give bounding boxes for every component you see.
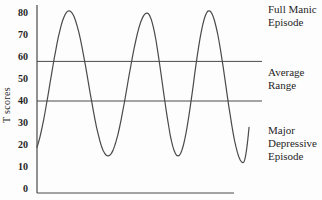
bipolar-mood-cycle-chart: T scores 80706050403020100 Full Manic Ep… — [0, 0, 322, 200]
y-tick-label-30: 30 — [2, 118, 28, 128]
y-tick-label-20: 20 — [2, 140, 28, 150]
y-tick-label-40: 40 — [2, 96, 28, 106]
mood-cycle-curve — [37, 11, 249, 163]
y-tick-label-80: 80 — [2, 8, 28, 18]
y-tick-label-0: 0 — [2, 184, 28, 194]
annotation-full-manic-episode: Full Manic Episode — [268, 3, 317, 29]
annotation-major-depressive-episode: Major Depressive Episode — [268, 124, 317, 163]
y-tick-label-50: 50 — [2, 74, 28, 84]
plot-area — [0, 0, 322, 200]
y-tick-label-60: 60 — [2, 52, 28, 62]
annotation-average-range: Average Range — [268, 66, 304, 92]
y-tick-label-10: 10 — [2, 162, 28, 172]
y-tick-label-70: 70 — [2, 30, 28, 40]
